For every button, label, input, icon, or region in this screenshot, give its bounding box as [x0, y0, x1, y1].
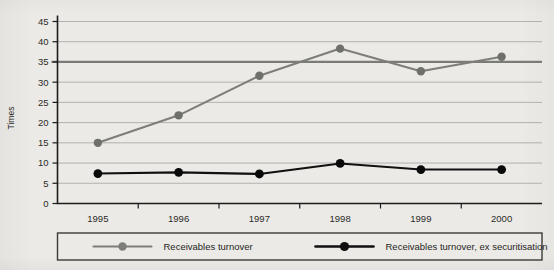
y-tick-label: 5 [43, 178, 48, 189]
y-axis-ticks: 051015202530354045 [38, 16, 58, 209]
y-axis-title: Times [6, 107, 16, 130]
data-point [94, 139, 102, 147]
x-tick-label: 1999 [410, 213, 431, 224]
data-point [255, 71, 263, 79]
x-axis-labels: 199519961997199819992000 [87, 213, 512, 224]
data-series [93, 44, 506, 178]
axis-lines [58, 16, 543, 204]
data-point [93, 169, 102, 178]
legend-label-2: Receivables turnover, ex securitisation [386, 241, 548, 252]
data-point [255, 170, 264, 179]
y-tick-label: 40 [38, 36, 49, 47]
data-point [336, 44, 344, 52]
chart-svg: 051015202530354045 Times 199519961997199… [0, 0, 554, 270]
y-tick-label: 20 [38, 117, 49, 128]
series-line-2 [98, 163, 502, 174]
x-tick-label: 2000 [491, 213, 512, 224]
x-tick-label: 1998 [330, 213, 351, 224]
data-point [497, 165, 506, 174]
data-point [417, 67, 425, 75]
x-tick-label: 1995 [87, 213, 108, 224]
legend-marker-2 [340, 242, 349, 251]
legend-label-1: Receivables turnover [164, 241, 253, 252]
y-tick-label: 25 [38, 97, 49, 108]
x-tick-label: 1997 [249, 213, 270, 224]
y-tick-label: 0 [43, 198, 48, 209]
data-point [497, 52, 505, 60]
data-point [174, 168, 183, 177]
data-point [416, 165, 425, 174]
legend-marker-1 [118, 242, 126, 250]
y-tick-label: 15 [38, 137, 49, 148]
line-chart: 051015202530354045 Times 199519961997199… [0, 0, 554, 270]
data-point [174, 111, 182, 119]
y-tick-label: 10 [38, 157, 49, 168]
gridlines [58, 22, 543, 184]
data-point [336, 159, 345, 168]
y-tick-label: 30 [38, 77, 49, 88]
chart-legend: Receivables turnoverReceivables turnover… [58, 233, 548, 260]
x-tick-label: 1996 [168, 213, 189, 224]
y-tick-label: 45 [38, 16, 49, 27]
y-tick-label: 35 [38, 56, 49, 67]
